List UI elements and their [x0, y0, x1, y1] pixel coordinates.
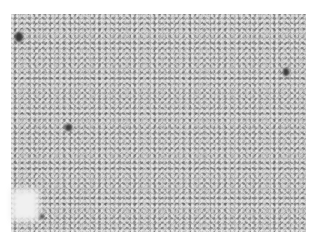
histology-micrograph — [11, 14, 306, 232]
dark-nucleus-cluster — [39, 214, 44, 219]
dark-nucleus-cluster — [15, 32, 23, 42]
dark-nucleus-cluster — [65, 124, 72, 131]
dark-nucleus-cluster — [283, 68, 289, 76]
pale-tissue-area — [11, 189, 39, 221]
